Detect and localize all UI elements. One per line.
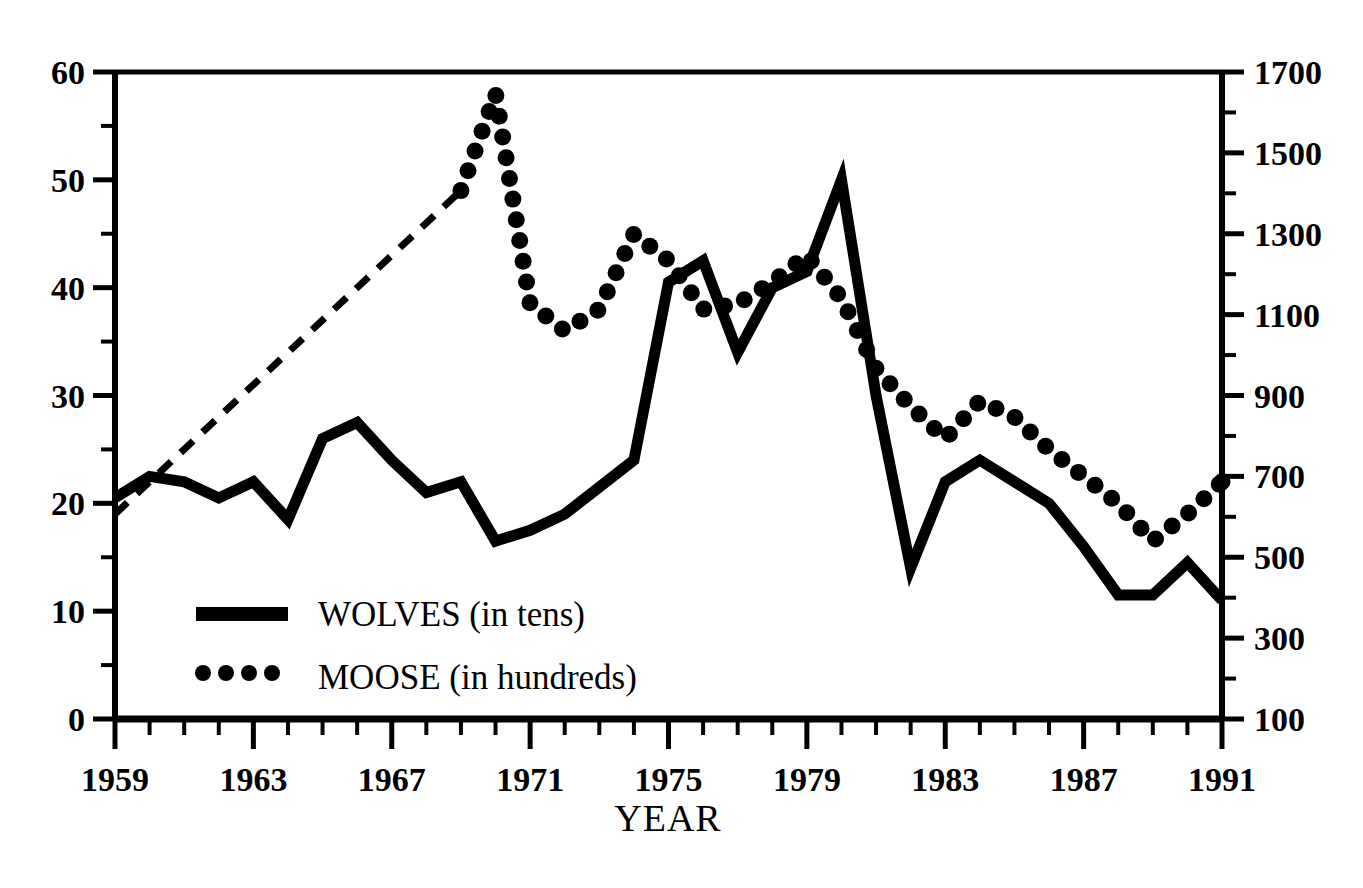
left-tick-label: 30: [51, 378, 85, 415]
chart-canvas: 0102030405060 17001500130011009007005003…: [0, 0, 1363, 888]
left-tick-label: 50: [51, 162, 85, 199]
moose-data-dot: [1132, 520, 1149, 537]
moose-data-dot: [882, 375, 899, 392]
chart-background: [0, 0, 1363, 888]
moose-data-dot: [840, 303, 857, 320]
moose-data-dot: [508, 211, 525, 228]
moose-data-dot: [1070, 464, 1087, 481]
x-tick-label: 1967: [358, 761, 426, 798]
moose-data-dot: [589, 302, 606, 319]
moose-data-dot: [829, 285, 846, 302]
moose-data-dot: [658, 251, 675, 268]
moose-data-dot: [494, 128, 511, 145]
moose-data-dot: [459, 162, 476, 179]
moose-data-dot: [1053, 451, 1070, 468]
right-tick-label: 300: [1254, 620, 1305, 657]
moose-data-dot: [491, 108, 508, 125]
x-tick-label: 1991: [1188, 761, 1256, 798]
x-tick-label: 1959: [81, 761, 149, 798]
moose-data-dot: [599, 283, 616, 300]
moose-data-dot: [941, 426, 958, 443]
moose-data-dot: [1214, 473, 1231, 490]
right-tick-label: 1700: [1254, 54, 1322, 91]
moose-data-dot: [616, 245, 633, 262]
moose-data-dot: [487, 87, 504, 104]
x-tick-label: 1975: [635, 761, 703, 798]
x-tick-label: 1963: [219, 761, 287, 798]
moose-data-dot: [1037, 438, 1054, 455]
right-tick-label: 500: [1254, 539, 1305, 576]
moose-data-dot: [926, 420, 943, 437]
moose-data-dot: [955, 410, 972, 427]
moose-data-dot: [695, 301, 712, 318]
moose-data-dot: [1195, 490, 1212, 507]
x-tick-label: 1979: [773, 761, 841, 798]
moose-data-dot: [1164, 518, 1181, 535]
x-axis-tick-labels: 195919631967197119751979198319871991: [81, 761, 1256, 798]
moose-data-dot: [501, 170, 518, 187]
moose-data-dot: [504, 191, 521, 208]
moose-data-dot: [911, 406, 928, 423]
moose-data-dot: [498, 149, 515, 166]
right-tick-label: 700: [1254, 458, 1305, 495]
x-tick-label: 1971: [496, 761, 564, 798]
moose-data-dot: [1103, 490, 1120, 507]
left-tick-label: 20: [51, 485, 85, 522]
x-tick-label: 1983: [911, 761, 979, 798]
moose-data-dot: [554, 320, 571, 337]
legend-label-wolves: WOLVES (in tens): [318, 595, 585, 634]
moose-data-dot: [1022, 423, 1039, 440]
left-tick-label: 60: [51, 54, 85, 91]
moose-data-dot: [515, 253, 532, 270]
moose-data-dot: [683, 284, 700, 301]
moose-data-dot: [537, 308, 554, 325]
moose-data-dot: [1118, 504, 1135, 521]
moose-data-dot: [1006, 409, 1023, 426]
moose-data-dot: [452, 182, 469, 199]
moose-data-dot: [521, 294, 538, 311]
left-tick-label: 10: [51, 593, 85, 630]
moose-data-dot: [467, 143, 484, 160]
moose-data-dot: [518, 274, 535, 291]
moose-data-dot: [625, 226, 642, 243]
moose-data-dot: [736, 291, 753, 308]
moose-data-dot: [1180, 505, 1197, 522]
left-tick-label: 0: [68, 701, 85, 738]
right-tick-label: 900: [1254, 378, 1305, 415]
moose-data-dot: [988, 400, 1005, 417]
moose-data-dot: [969, 395, 986, 412]
right-tick-label: 1500: [1254, 135, 1322, 172]
right-tick-label: 1100: [1254, 297, 1320, 334]
moose-data-dot: [511, 232, 528, 249]
right-tick-label: 1300: [1254, 216, 1322, 253]
moose-data-dot: [896, 391, 913, 408]
legend-swatch-wolves: [196, 607, 288, 621]
x-axis-title: YEAR: [614, 797, 721, 839]
moose-data-dot: [641, 238, 658, 255]
moose-data-dot: [816, 269, 833, 286]
chart-figure: 0102030405060 17001500130011009007005003…: [0, 0, 1363, 888]
moose-data-dot: [1087, 477, 1104, 494]
moose-data-dot: [572, 313, 589, 330]
right-tick-label: 100: [1254, 701, 1305, 738]
moose-data-dot: [608, 264, 625, 281]
left-tick-label: 40: [51, 270, 85, 307]
legend-label-moose: MOOSE (in hundreds): [318, 658, 637, 697]
x-tick-label: 1987: [1050, 761, 1118, 798]
moose-data-dot: [474, 123, 491, 140]
moose-data-dot: [1147, 530, 1164, 547]
